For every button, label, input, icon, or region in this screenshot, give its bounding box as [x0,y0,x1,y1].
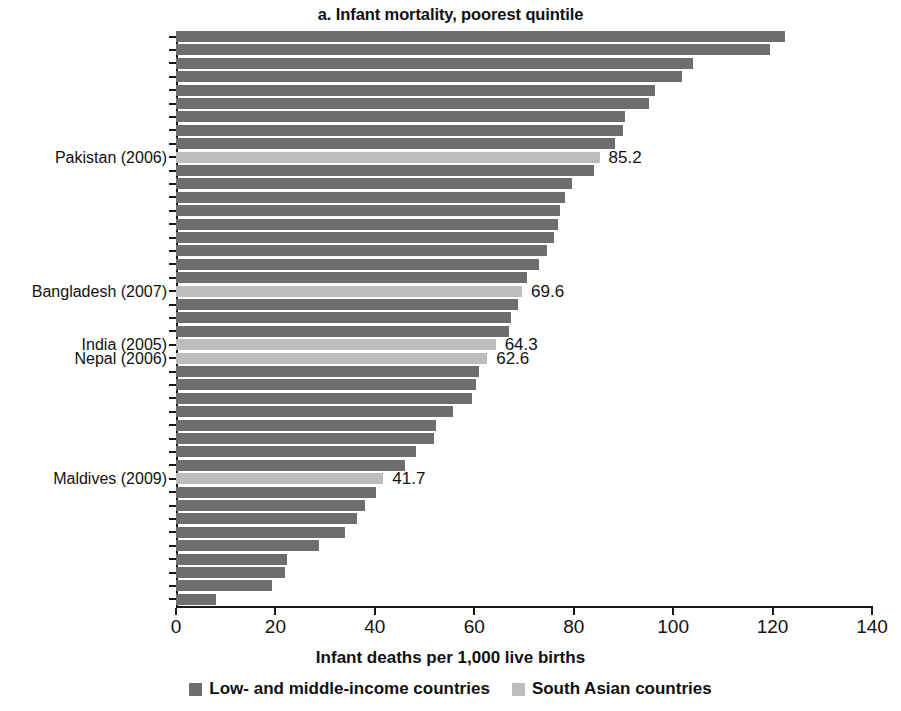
y-axis-tick [169,384,176,386]
bar [176,460,405,471]
bar [176,205,560,216]
y-axis-tick [169,250,176,252]
bar-row [176,44,872,55]
x-axis-tick-label: 80 [563,617,584,636]
y-axis-tick [169,263,176,265]
bar [176,125,623,136]
y-axis-tick [169,451,176,453]
bar [176,165,594,176]
bar-row [176,594,872,605]
bar-value-label: 69.6 [531,283,564,300]
bar-row [176,393,872,404]
y-axis-tick [169,89,176,91]
bar [176,58,693,69]
infant-mortality-chart-figure: a. Infant mortality, poorest quintile In… [0,0,901,711]
bar [176,85,655,96]
y-axis-tick [169,491,176,493]
bar [176,71,682,82]
bar [176,44,770,55]
x-axis-tick [573,608,575,615]
category-label: Bangladesh (2007) [32,284,167,300]
legend-swatch-lmic-icon [189,683,202,696]
bar-row [176,178,872,189]
chart-legend: Low- and middle-income countries South A… [0,679,901,699]
y-axis-tick [169,317,176,319]
bar-value-label: 41.7 [392,470,425,487]
bar-row [176,138,872,149]
bar-row [176,286,872,297]
y-axis-tick [169,129,176,131]
bar-row [176,487,872,498]
bar-row [176,567,872,578]
y-axis-tick [169,103,176,105]
bar-row [176,460,872,471]
bar [176,420,436,431]
bar-row [176,473,872,484]
y-axis-tick [169,424,176,426]
y-axis-tick [169,170,176,172]
bar-row [176,540,872,551]
bar [176,594,216,605]
bar [176,286,522,297]
y-axis-tick [169,183,176,185]
bar-row [176,259,872,270]
y-axis-tick [169,116,176,118]
bar [176,540,319,551]
y-axis-tick [169,598,176,600]
category-label: Maldives (2009) [53,471,167,487]
bar [176,554,287,565]
bar [176,312,511,323]
x-axis-title: Infant deaths per 1,000 live births [0,648,901,668]
bar-row [176,232,872,243]
bar-row [176,500,872,511]
y-axis-tick [169,344,176,346]
plot-area [176,31,872,607]
y-axis-tick [169,545,176,547]
bar-row [176,580,872,591]
y-axis-tick [169,210,176,212]
bar [176,487,376,498]
bar-row [176,111,872,122]
bar [176,580,272,591]
y-axis-tick [169,156,176,158]
bar-row [176,433,872,444]
bar-value-label: 85.2 [609,149,642,166]
category-label: Pakistan (2006) [55,150,167,166]
bar [176,232,554,243]
bar [176,567,285,578]
y-axis-tick [169,357,176,359]
bar-row [176,554,872,565]
y-axis-tick [169,196,176,198]
x-axis-tick [772,608,774,615]
y-axis-tick [169,62,176,64]
x-axis-tick [175,608,177,615]
legend-label-lmic: Low- and middle-income countries [209,679,490,699]
bar [176,393,472,404]
bar [176,353,487,364]
y-axis-tick [169,478,176,480]
legend-swatch-south-asian-icon [512,683,525,696]
bar [176,219,558,230]
bar-row [176,98,872,109]
bar [176,299,518,310]
y-axis-tick [169,304,176,306]
y-axis-tick [169,558,176,560]
bar [176,138,615,149]
x-axis-tick-label: 20 [265,617,286,636]
bar [176,31,785,42]
bar [176,379,476,390]
bar [176,152,600,163]
category-label: Nepal (2006) [75,351,168,367]
bar [176,473,383,484]
bar-row [176,420,872,431]
legend-label-south-asian: South Asian countries [532,679,712,699]
y-axis-tick [169,411,176,413]
bar [176,366,479,377]
bar [176,433,434,444]
bar [176,192,565,203]
bar-row [176,406,872,417]
y-axis-tick [169,397,176,399]
chart-title: a. Infant mortality, poorest quintile [0,5,901,24]
legend-item-south-asian: South Asian countries [512,679,712,699]
y-axis-tick [169,572,176,574]
